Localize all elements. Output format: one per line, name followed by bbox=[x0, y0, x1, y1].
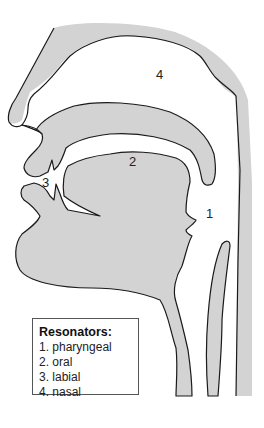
region-label-pharyngeal: 1 bbox=[206, 207, 213, 220]
legend-item-labial: 3. labial bbox=[39, 370, 132, 385]
legend-item-nasal: 4. nasal bbox=[39, 385, 132, 400]
legend-item-oral: 2. oral bbox=[39, 355, 132, 370]
region-label-labial: 3 bbox=[42, 176, 49, 189]
legend-title: Resonators: bbox=[39, 325, 132, 339]
epiglottis bbox=[207, 241, 231, 396]
region-label-oral: 2 bbox=[129, 155, 136, 168]
region-label-nasal: 4 bbox=[156, 68, 163, 81]
legend-item-pharyngeal: 1. pharyngeal bbox=[39, 340, 132, 355]
legend-box: Resonators: 1. pharyngeal 2. oral 3. lab… bbox=[32, 318, 139, 395]
